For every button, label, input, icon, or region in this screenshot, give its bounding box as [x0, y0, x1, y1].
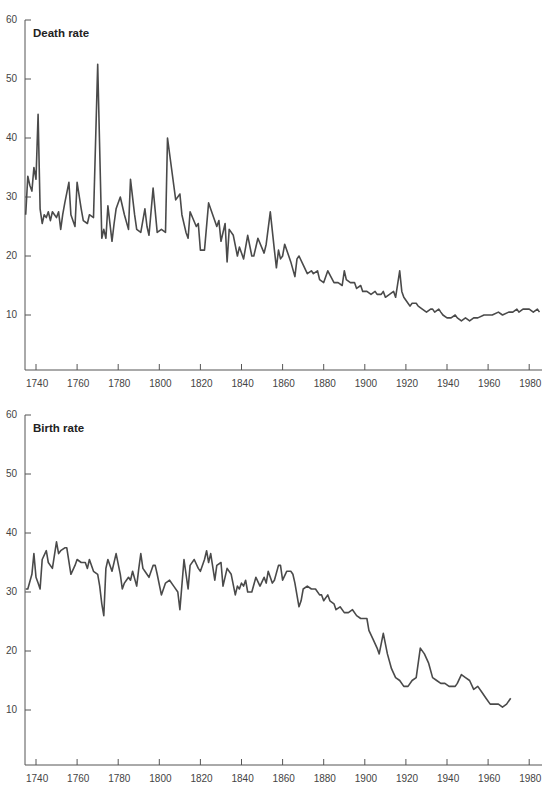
x-tick-label: 1780 [108, 773, 131, 784]
x-tick-label: 1800 [149, 378, 172, 389]
birth-rate-plot: 1020304050601740176017801800182018401860… [0, 395, 551, 793]
y-tick-label: 60 [6, 409, 18, 420]
x-tick-label: 1980 [519, 378, 542, 389]
y-tick-label: 10 [6, 309, 18, 320]
chart-title: Birth rate [33, 422, 84, 434]
y-tick-label: 10 [6, 704, 18, 715]
y-tick-label: 60 [6, 14, 18, 25]
x-tick-label: 1940 [437, 378, 460, 389]
x-tick-label: 1900 [355, 773, 378, 784]
x-tick-label: 1840 [232, 378, 255, 389]
y-tick-label: 50 [6, 468, 18, 479]
y-tick-label: 40 [6, 527, 18, 538]
series-line-birth [26, 542, 511, 707]
x-tick-label: 1860 [273, 378, 296, 389]
x-tick-label: 1940 [437, 773, 460, 784]
x-tick-label: 1900 [355, 378, 378, 389]
x-tick-label: 1960 [478, 378, 501, 389]
x-tick-label: 1740 [26, 378, 49, 389]
x-tick-label: 1880 [314, 378, 337, 389]
x-tick-label: 1780 [108, 378, 131, 389]
chart-title: Death rate [33, 27, 89, 39]
x-tick-label: 1760 [67, 378, 90, 389]
x-tick-label: 1840 [232, 773, 255, 784]
y-tick-label: 30 [6, 191, 18, 202]
x-tick-label: 1920 [396, 378, 419, 389]
y-tick-label: 30 [6, 586, 18, 597]
x-tick-label: 1800 [149, 773, 172, 784]
birth-rate-chart: 1020304050601740176017801800182018401860… [0, 395, 551, 793]
y-tick-label: 20 [6, 250, 18, 261]
x-tick-label: 1880 [314, 773, 337, 784]
x-tick-label: 1820 [190, 773, 213, 784]
x-tick-label: 1860 [273, 773, 296, 784]
axes: 1020304050601740176017801800182018401860… [6, 409, 542, 784]
series-line-death [26, 64, 540, 321]
y-tick-label: 20 [6, 645, 18, 656]
x-tick-label: 1820 [190, 378, 213, 389]
death-rate-plot: 1020304050601740176017801800182018401860… [0, 0, 551, 395]
axes: 1020304050601740176017801800182018401860… [6, 14, 542, 389]
x-tick-label: 1980 [519, 773, 542, 784]
death-rate-chart: 1020304050601740176017801800182018401860… [0, 0, 551, 395]
x-tick-label: 1920 [396, 773, 419, 784]
y-tick-label: 40 [6, 132, 18, 143]
y-tick-label: 50 [6, 73, 18, 84]
x-tick-label: 1740 [26, 773, 49, 784]
x-tick-label: 1760 [67, 773, 90, 784]
x-tick-label: 1960 [478, 773, 501, 784]
